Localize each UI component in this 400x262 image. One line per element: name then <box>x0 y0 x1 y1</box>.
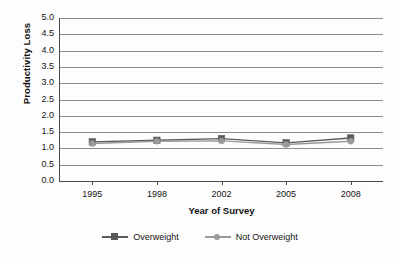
y-axis-tick-label: 1.0 <box>30 143 54 152</box>
legend-label: Not Overweight <box>236 232 298 242</box>
legend-label: Overweight <box>133 232 179 242</box>
legend-item-overweight[interactable]: Overweight <box>102 232 179 242</box>
y-axis-tick-label: 0.5 <box>30 160 54 169</box>
x-axis-tick-mark <box>157 181 158 185</box>
legend-item-not-overweight[interactable]: Not Overweight <box>205 232 298 242</box>
y-axis-tick-labels: 0.00.51.01.52.02.53.03.54.04.55.0 <box>26 18 54 181</box>
x-axis-tick-label: 1995 <box>68 189 116 199</box>
legend-swatch-square-icon <box>102 232 128 242</box>
data-point-marker <box>154 138 160 144</box>
data-series-layer <box>60 18 383 181</box>
y-axis-tick-label: 2.5 <box>30 95 54 104</box>
y-axis-tick-label: 2.0 <box>30 111 54 120</box>
data-point-marker <box>219 138 225 144</box>
y-axis-tick-label: 0.0 <box>30 176 54 185</box>
x-axis-tick-mark <box>92 181 93 185</box>
y-axis-tick-label: 4.5 <box>30 29 54 38</box>
x-axis-title: Year of Survey <box>60 205 383 216</box>
data-point-marker <box>89 141 95 147</box>
y-axis-tick-label: 3.5 <box>30 62 54 71</box>
x-axis-tick-label: 2008 <box>327 189 375 199</box>
y-axis-tick-label: 3.0 <box>30 78 54 87</box>
x-axis-tick-label: 2002 <box>198 189 246 199</box>
x-axis-tick-mark <box>286 181 287 185</box>
x-axis-tick-label: 1998 <box>133 189 181 199</box>
productivity-loss-line-chart: Productivity Loss 0.00.51.01.52.02.53.03… <box>0 0 400 262</box>
data-point-marker <box>283 142 289 148</box>
x-axis-tick-mark <box>351 181 352 185</box>
x-axis-tick-label: 2005 <box>262 189 310 199</box>
y-axis-tick-label: 4.0 <box>30 46 54 55</box>
y-axis-tick-label: 1.5 <box>30 127 54 136</box>
legend-marker-square-icon <box>111 233 118 240</box>
data-point-marker <box>348 138 354 144</box>
x-axis-tick-mark <box>222 181 223 185</box>
y-axis-tick-label: 5.0 <box>30 13 54 22</box>
chart-legend: OverweightNot Overweight <box>0 232 400 242</box>
legend-marker-circle-icon <box>214 234 220 240</box>
legend-swatch-circle-icon <box>205 232 231 242</box>
